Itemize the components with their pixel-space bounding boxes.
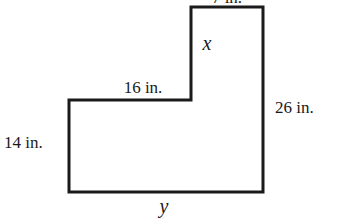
inner-horizontal-label: 16 in. [124, 78, 163, 97]
l-shape-outline [69, 7, 263, 192]
left-side-label: 14 in. [4, 133, 43, 152]
top-side-label: 7 in. [212, 0, 242, 7]
bottom-side-label-y: y [158, 195, 169, 218]
right-side-label: 26 in. [275, 98, 314, 117]
l-shape-diagram: 7 in. x 16 in. 26 in. 14 in. y [0, 0, 349, 219]
inner-vertical-label-x: x [202, 32, 212, 54]
